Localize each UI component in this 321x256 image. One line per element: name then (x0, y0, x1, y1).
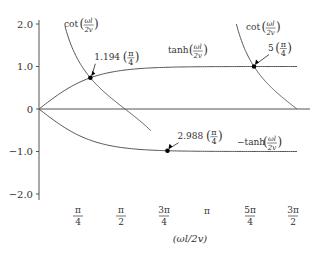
x-axis-label: (ωl/2v) (173, 233, 208, 244)
x-ticks: π4π23π4π5π43π2 (73, 205, 299, 227)
x-tick-denominator: 4 (247, 217, 253, 227)
curve-label-function: cot (64, 19, 78, 29)
x-tick-label: 5π4 (244, 205, 256, 227)
intersection-point (252, 64, 257, 69)
fraction-numerator: ωl (268, 135, 276, 143)
paren-close: ) (135, 50, 140, 64)
fraction-numerator: ωl (267, 20, 275, 28)
fraction-denominator: 2v (83, 26, 92, 34)
x-tick-label: 3π4 (158, 205, 170, 227)
curves (39, 24, 297, 152)
fraction-denominator: 4 (211, 137, 216, 146)
fraction-denominator: 2v (267, 144, 276, 152)
x-tick-denominator: 2 (118, 217, 124, 227)
curve-label: cot(ωl2v) (64, 17, 99, 34)
intersection-label: 5(π4) (268, 40, 292, 58)
curve-label: tanh(ωl2v) (168, 43, 208, 60)
intersection-value: 1.194 (94, 52, 120, 62)
fraction-numerator: ωl (194, 43, 202, 51)
y-tick-label: 1.0 (17, 61, 33, 72)
fraction-numerator: ωl (85, 17, 93, 25)
paren-close: ) (276, 20, 281, 34)
intersection-point (88, 75, 93, 80)
curve-label: −tanh(ωl2v) (237, 135, 282, 152)
fraction-numerator: π (281, 40, 286, 49)
y-tick-label: 0 (27, 104, 33, 115)
fraction-denominator: 2v (193, 52, 202, 60)
paren-close: ) (278, 135, 283, 149)
fraction-denominator: 4 (281, 49, 286, 58)
y-tick-label: −2.0 (9, 189, 33, 200)
fraction-denominator: 4 (128, 58, 133, 67)
curve-label-function: tanh (168, 45, 189, 55)
curve-label: cot(ωl2v) (246, 20, 281, 37)
x-tick-numerator: 5π (244, 205, 256, 215)
x-tick-denominator: 2 (290, 217, 296, 227)
x-tick-label: 3π2 (287, 205, 299, 227)
fraction-numerator: π (128, 49, 133, 58)
x-tick-denominator: 4 (75, 217, 81, 227)
intersection-value: 2.988 (177, 131, 203, 141)
x-tick-numerator: 3π (158, 205, 170, 215)
intersection-value: 5 (268, 43, 274, 53)
paren-open: ( (275, 41, 280, 55)
intersection-label: 2.988(π4) (177, 128, 222, 146)
x-tick-label: π2 (116, 205, 126, 227)
curve-label-function: −tanh (237, 137, 265, 147)
x-tick-denominator: 4 (161, 217, 167, 227)
paren-close: ) (94, 17, 99, 31)
fraction-numerator: π (211, 128, 216, 137)
fraction-denominator: 2v (265, 29, 274, 37)
x-tick-label: π4 (73, 205, 83, 227)
x-tick-numerator: 3π (287, 205, 299, 215)
intersection-label: 1.194(π4) (94, 49, 139, 67)
x-tick-value: π (204, 206, 210, 216)
x-tick-numerator: π (118, 205, 124, 215)
paren-open: ( (206, 129, 211, 143)
y-tick-label: 2.0 (17, 19, 33, 30)
paren-open: ( (123, 50, 128, 64)
y-ticks: 2.01.00−1.0−2.0 (9, 19, 39, 200)
chart: 2.01.00−1.0−2.0 π4π23π4π5π43π2 1.194(π4)… (0, 0, 321, 256)
paren-close: ) (203, 43, 208, 57)
x-tick-numerator: π (75, 205, 81, 215)
paren-close: ) (218, 129, 223, 143)
intersection-point (165, 148, 170, 153)
series-cot-curve (65, 26, 151, 130)
curve-label-function: cot (246, 22, 260, 32)
y-tick-label: −1.0 (9, 146, 33, 157)
paren-close: ) (287, 41, 292, 55)
x-tick-label: π (204, 206, 210, 216)
